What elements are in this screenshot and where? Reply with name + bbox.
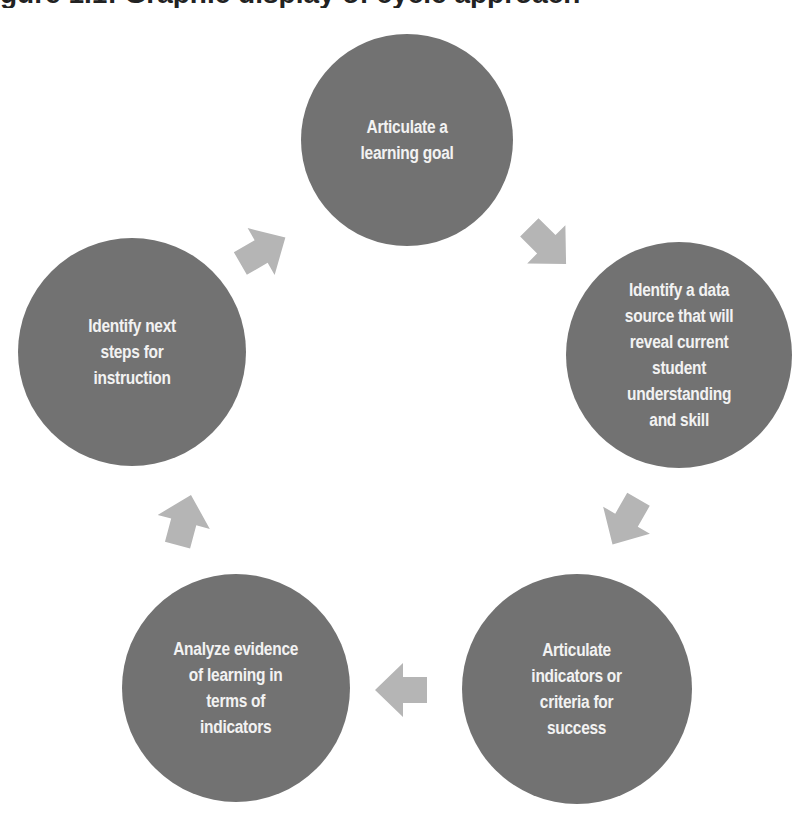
node-analyze-evidence: Analyze evidence of learning in terms of… — [122, 574, 350, 802]
node-label: Articulate a learning goal — [361, 114, 454, 166]
node-learning-goal: Articulate a learning goal — [301, 34, 513, 246]
node-next-steps: Identify next steps for instruction — [18, 238, 246, 466]
cycle-diagram: Articulate a learning goal Identify a da… — [0, 0, 811, 826]
arrow-right-icon — [506, 204, 588, 286]
node-data-source: Identify a data source that will reveal … — [566, 242, 792, 468]
node-success-criteria: Articulate indicators or criteria for su… — [462, 574, 692, 804]
arrow-right-icon — [222, 211, 301, 290]
node-label: Analyze evidence of learning in terms of… — [174, 636, 299, 740]
node-label: Identify next steps for instruction — [88, 313, 176, 391]
node-label: Articulate indicators or criteria for su… — [532, 637, 622, 741]
arrow-right-icon — [148, 485, 219, 556]
arrow-right-icon — [586, 481, 665, 560]
arrow-right-icon — [373, 661, 431, 719]
node-label: Identify a data source that will reveal … — [625, 277, 734, 433]
